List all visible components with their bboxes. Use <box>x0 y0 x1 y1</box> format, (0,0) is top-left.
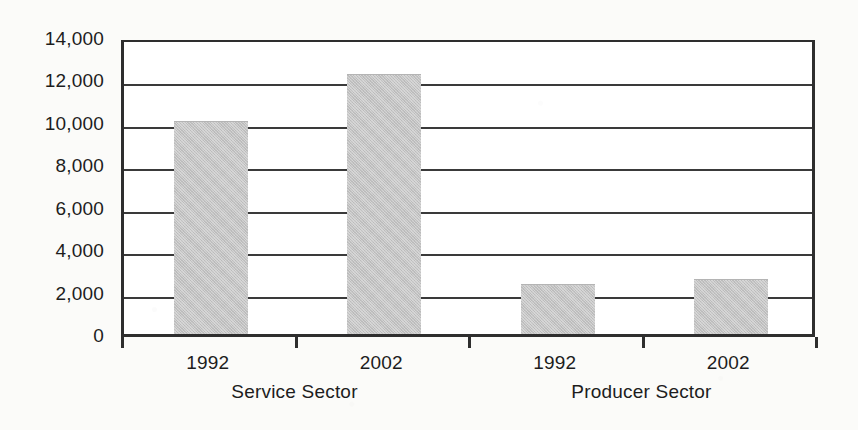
x-axis-category-label: 2002 <box>668 352 788 374</box>
x-axis-category-label: 2002 <box>321 352 441 374</box>
plot-area <box>121 40 815 337</box>
y-axis-labels: 14,00012,00010,0008,0006,0004,0002,0000 <box>0 40 104 337</box>
group-label: Service Sector <box>165 381 425 403</box>
x-axis-tick <box>642 337 645 348</box>
bar-chart-figure: 14,00012,00010,0008,0006,0004,0002,0000 … <box>0 0 858 430</box>
x-axis-category-label: 1992 <box>495 352 615 374</box>
x-axis-tick <box>295 337 298 348</box>
bar <box>694 279 768 334</box>
y-axis-tick-label: 10,000 <box>8 113 104 135</box>
x-axis-tick <box>815 337 818 348</box>
y-axis-tick-label: 2,000 <box>8 283 104 305</box>
y-axis-tick-label: 14,000 <box>8 28 104 50</box>
x-axis-tick <box>468 337 471 348</box>
x-axis-tick <box>121 337 124 348</box>
gridline <box>124 84 812 86</box>
y-axis-tick-label: 0 <box>8 325 104 347</box>
bar <box>521 284 595 334</box>
group-label: Producer Sector <box>512 381 772 403</box>
x-axis-category-label: 1992 <box>148 352 268 374</box>
y-axis-tick-label: 8,000 <box>8 155 104 177</box>
bar <box>174 121 248 334</box>
y-axis-tick-label: 6,000 <box>8 198 104 220</box>
bar <box>347 74 421 334</box>
y-axis-tick-label: 4,000 <box>8 240 104 262</box>
y-axis-tick-label: 12,000 <box>8 70 104 92</box>
